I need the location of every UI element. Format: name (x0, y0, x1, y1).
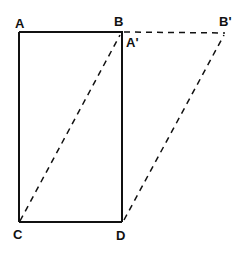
label-a: A (15, 16, 25, 31)
label-a-prime: A' (126, 35, 138, 50)
label-b-prime: B' (219, 14, 231, 29)
shear-diagram: A B A' B' C D (0, 0, 248, 254)
label-b: B (114, 14, 123, 29)
edge-ca-prime (20, 35, 120, 221)
edge-bb-prime (124, 32, 225, 33)
label-c: C (13, 227, 23, 242)
edge-db-prime (124, 35, 224, 220)
label-d: D (116, 228, 125, 243)
